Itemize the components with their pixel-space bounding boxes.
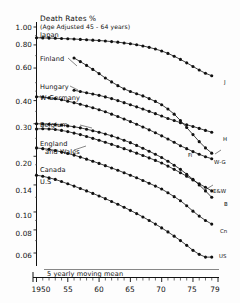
data-point-marker	[98, 72, 101, 75]
data-point-marker	[60, 180, 63, 183]
data-point-marker	[79, 90, 82, 93]
data-point-marker	[166, 117, 169, 120]
data-point-marker	[166, 165, 169, 168]
data-point-marker	[116, 99, 119, 102]
data-point-marker	[141, 215, 144, 218]
data-point-marker	[66, 130, 69, 133]
data-point-marker	[60, 129, 63, 132]
data-point-marker	[98, 194, 101, 197]
data-point-marker	[141, 108, 144, 111]
data-point-marker	[198, 215, 201, 218]
end-label-japan: J	[224, 79, 226, 85]
data-point-marker	[166, 137, 169, 140]
data-point-marker	[148, 219, 151, 222]
label-leader-line	[215, 150, 221, 154]
data-point-marker	[35, 127, 38, 130]
end-label-wgermany: W-G	[214, 159, 226, 165]
data-point-marker	[148, 156, 151, 159]
data-point-marker	[116, 169, 119, 172]
data-point-marker	[129, 42, 132, 45]
data-point-marker	[110, 80, 113, 83]
data-point-marker	[73, 125, 76, 128]
data-point-marker	[141, 154, 144, 157]
data-point-marker	[160, 134, 163, 137]
data-point-marker	[110, 143, 113, 146]
data-point-marker	[148, 182, 151, 185]
data-point-marker	[79, 156, 82, 159]
data-point-marker	[210, 152, 213, 155]
series-label-canada: Canada	[40, 166, 66, 174]
data-point-marker	[135, 144, 138, 147]
end-label-finland: Fi	[188, 152, 192, 158]
series-label-belgium: Belgium	[40, 121, 68, 129]
data-point-marker	[85, 91, 88, 94]
data-point-marker	[179, 171, 182, 174]
data-point-marker	[160, 49, 163, 52]
data-point-marker	[35, 36, 38, 39]
series-label-england-line2: and Wales	[45, 148, 80, 156]
data-point-marker	[110, 166, 113, 169]
chart-plot-area	[0, 0, 240, 303]
y-tick-label-1-00: 1.00	[6, 23, 32, 32]
x-tick-label-60: 60	[87, 285, 111, 294]
data-point-marker	[85, 158, 88, 161]
series-line	[37, 124, 212, 198]
data-point-marker	[85, 104, 88, 107]
data-point-marker	[154, 185, 157, 188]
chart-footnote: 5 yearly moving mean	[47, 270, 123, 278]
data-point-marker	[85, 128, 88, 131]
y-tick-label-0-60: 0.60	[6, 63, 32, 72]
data-point-marker	[73, 89, 76, 92]
data-point-marker	[179, 239, 182, 242]
data-point-marker	[91, 39, 94, 42]
data-point-marker	[91, 93, 94, 96]
data-point-marker	[104, 76, 107, 79]
data-point-marker	[91, 160, 94, 163]
data-point-marker	[129, 90, 132, 93]
data-point-marker	[173, 141, 176, 144]
death-rates-chart: Death Rates % (Age Adjusted 45 - 64 year…	[0, 0, 240, 303]
data-point-marker	[179, 144, 182, 147]
data-point-marker	[135, 43, 138, 46]
data-point-marker	[129, 174, 132, 177]
data-point-marker	[79, 133, 82, 136]
data-point-marker	[135, 212, 138, 215]
data-point-marker	[154, 112, 157, 115]
chart-subtitle: (Age Adjusted 45 - 64 years)	[40, 23, 130, 30]
data-point-marker	[35, 174, 38, 177]
data-point-marker	[129, 149, 132, 152]
data-point-marker	[210, 196, 213, 199]
data-point-marker	[154, 223, 157, 226]
data-point-marker	[123, 101, 126, 104]
data-point-marker	[135, 152, 138, 155]
data-point-marker	[66, 37, 69, 40]
y-tick-label-0-30: 0.30	[6, 123, 32, 132]
data-point-marker	[173, 164, 176, 167]
data-point-marker	[79, 38, 82, 41]
data-point-marker	[104, 110, 107, 113]
series-label-finland: Finland	[40, 55, 64, 63]
data-point-marker	[116, 115, 119, 118]
data-point-marker	[204, 155, 207, 158]
data-point-marker	[166, 230, 169, 233]
data-point-marker	[191, 178, 194, 181]
data-point-marker	[123, 41, 126, 44]
data-point-marker	[204, 186, 207, 189]
data-point-marker	[141, 44, 144, 47]
data-point-marker	[166, 160, 169, 163]
y-tick-label-0-10: 0.10	[6, 211, 32, 220]
y-tick-label-0-20: 0.20	[6, 159, 32, 168]
data-point-marker	[104, 141, 107, 144]
data-point-marker	[191, 125, 194, 128]
data-point-marker	[104, 164, 107, 167]
data-point-marker	[79, 187, 82, 190]
data-point-marker	[123, 139, 126, 142]
data-point-marker	[116, 136, 119, 139]
data-point-marker	[191, 249, 194, 252]
data-point-marker	[210, 131, 213, 134]
data-point-marker	[135, 176, 138, 179]
data-point-marker	[148, 150, 151, 153]
data-point-marker	[154, 48, 157, 51]
data-point-marker	[73, 56, 76, 59]
data-point-marker	[148, 110, 151, 113]
